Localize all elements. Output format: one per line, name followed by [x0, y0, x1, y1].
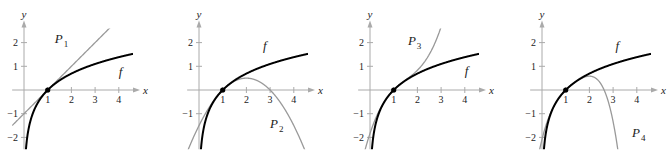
y-tick-label: −2 — [7, 132, 18, 143]
x-tick-label: 3 — [268, 94, 273, 105]
x-tick-label: 3 — [439, 94, 444, 105]
curve-p3 — [358, 0, 479, 162]
function-label: f — [263, 38, 269, 53]
y-tick-label: 2 — [359, 37, 364, 48]
y-tick-label: −1 — [353, 108, 364, 119]
y-axis-arrow-icon — [197, 20, 202, 27]
x-axis-arrow-icon — [133, 88, 140, 93]
x-tick-label: 3 — [611, 94, 616, 105]
x-tick-label: 1 — [45, 94, 50, 105]
polynomial-label: P4 — [631, 125, 646, 143]
y-tick-label: 2 — [188, 37, 193, 48]
curve-p1 — [12, 5, 133, 126]
y-tick-label: 1 — [188, 61, 193, 72]
curve-f — [542, 54, 651, 162]
y-tick-label: −2 — [525, 132, 536, 143]
curve-f — [370, 54, 479, 162]
y-tick-label: 1 — [13, 61, 18, 72]
y-tick-label: 2 — [13, 37, 18, 48]
taylor-polynomial-figure: xy123421−1−2P1fxy123421−1fP2xy123421−1−2… — [0, 0, 670, 162]
chart-panel-2: xy123421−1fP2 — [182, 8, 323, 162]
polynomial-label: P1 — [54, 31, 68, 49]
function-label: f — [119, 64, 125, 79]
chart-panel-4: xy123421−1−2fP4 — [525, 8, 666, 162]
x-tick-label: 4 — [634, 94, 639, 105]
x-tick-label: 4 — [291, 94, 296, 105]
y-axis-arrow-icon — [22, 20, 27, 27]
y-tick-label: 1 — [531, 61, 536, 72]
y-tick-label: −1 — [7, 108, 18, 119]
polynomial-label: P3 — [407, 33, 422, 51]
x-axis-arrow-icon — [308, 88, 315, 93]
tangent-point — [45, 87, 50, 92]
y-axis-label: y — [367, 8, 373, 20]
chart-panel-1: xy123421−1−2P1f — [7, 5, 148, 162]
y-axis-arrow-icon — [540, 20, 545, 27]
y-axis-label: y — [196, 8, 202, 20]
y-axis-label: y — [539, 8, 545, 20]
x-tick-label: 3 — [93, 94, 98, 105]
y-tick-label: −1 — [525, 108, 536, 119]
curve-f — [24, 54, 133, 162]
function-label: f — [465, 63, 471, 78]
x-axis-label: x — [660, 84, 666, 96]
x-tick-label: 2 — [69, 94, 74, 105]
x-tick-label: 4 — [116, 94, 121, 105]
y-tick-label: 2 — [531, 37, 536, 48]
tangent-point — [220, 87, 225, 92]
x-tick-label: 4 — [462, 94, 467, 105]
x-tick-label: 1 — [220, 94, 225, 105]
x-tick-label: 2 — [587, 94, 592, 105]
curve-f — [199, 54, 308, 162]
x-tick-label: 2 — [244, 94, 249, 105]
tangent-point — [391, 87, 396, 92]
y-tick-label: −1 — [182, 108, 193, 119]
x-axis-label: x — [142, 84, 148, 96]
y-tick-label: 1 — [359, 61, 364, 72]
x-tick-label: 1 — [563, 94, 568, 105]
function-label: f — [615, 38, 621, 53]
x-tick-label: 1 — [391, 94, 396, 105]
x-tick-label: 2 — [415, 94, 420, 105]
y-axis-label: y — [21, 8, 27, 20]
chart-panel-3: xy123421−1−2P3f — [353, 0, 494, 162]
x-axis-label: x — [488, 84, 494, 96]
polynomial-label: P2 — [269, 116, 283, 134]
x-axis-arrow-icon — [651, 88, 658, 93]
y-tick-label: −2 — [353, 132, 364, 143]
y-axis-arrow-icon — [368, 20, 373, 27]
x-axis-arrow-icon — [479, 88, 486, 93]
figure-canvas: xy123421−1−2P1fxy123421−1fP2xy123421−1−2… — [0, 0, 670, 162]
x-axis-label: x — [317, 84, 323, 96]
tangent-point — [563, 87, 568, 92]
